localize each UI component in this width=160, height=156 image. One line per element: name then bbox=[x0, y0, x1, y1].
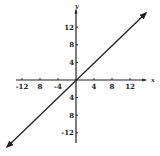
y-tick-label: 12 bbox=[64, 23, 74, 32]
x-tick-label: -4 bbox=[54, 82, 62, 91]
x-axis-label: x bbox=[150, 76, 155, 83]
y-tick-label: 4 bbox=[69, 93, 74, 102]
coordinate-plane: -128-44812 128448-12 x y bbox=[0, 0, 160, 156]
x-tick-label: 4 bbox=[92, 82, 97, 91]
y-axis-label: y bbox=[74, 2, 79, 10]
y-tick-label: -12 bbox=[61, 128, 74, 137]
x-tick-label: 12 bbox=[125, 82, 135, 91]
x-tick-label: -12 bbox=[16, 82, 29, 91]
y-tick-label: 4 bbox=[69, 58, 74, 67]
y-tick-label: 8 bbox=[69, 111, 74, 120]
x-tick-label: 8 bbox=[38, 82, 43, 91]
y-tick-label: 8 bbox=[69, 40, 74, 49]
x-tick-label: 8 bbox=[110, 82, 115, 91]
